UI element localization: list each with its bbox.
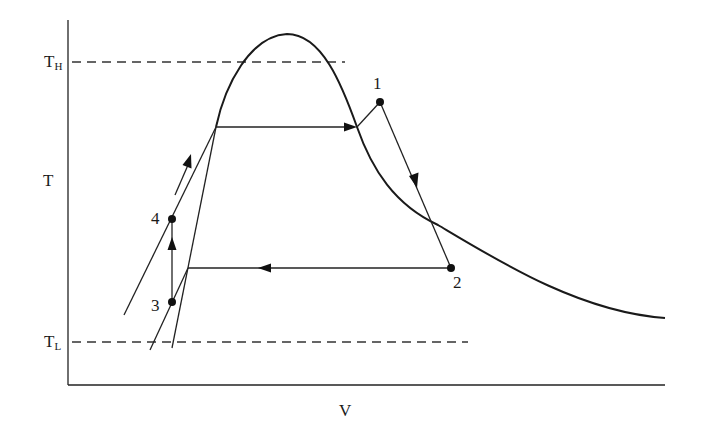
pump-arrowhead [168,237,177,250]
liquid-line-inner [172,127,216,348]
tl-label: TL [44,333,61,352]
point-4 [168,215,176,223]
y-axis-label: T [43,172,53,189]
point-2 [447,264,455,272]
condensation-arrowhead [258,264,271,273]
tl-label-main: T [44,332,54,351]
th-label-main: T [44,52,54,71]
x-axis-label: V [339,402,351,419]
point-3-label: 3 [151,297,160,314]
tl-label-sub: L [54,340,61,352]
th-label: TH [44,53,62,72]
direction-indicator-line [175,165,188,195]
point-1-label: 1 [373,75,382,92]
point-3 [168,298,176,306]
saturation-dome-curve [216,34,665,318]
point-4-label: 4 [151,210,160,227]
tv-diagram [0,0,701,445]
direction-indicator-arrowhead [183,154,192,169]
point-2-label: 2 [453,274,462,291]
th-label-sub: H [54,60,62,72]
expansion-arrowhead [409,173,419,189]
point-1 [376,98,384,106]
superheat-line [357,102,380,127]
